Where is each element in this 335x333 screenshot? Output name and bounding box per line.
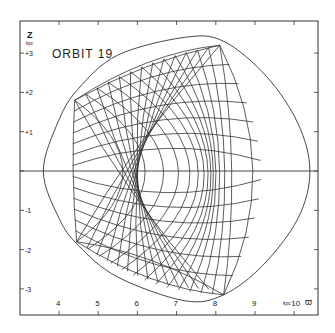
x-tick-label: 7	[174, 299, 179, 308]
y-tick-label: +1	[25, 129, 33, 136]
x-tick-label: 5	[95, 299, 100, 308]
x-tick-label: 4	[56, 299, 61, 308]
y-tick-label: +2	[25, 89, 33, 96]
x-tick-label: 10	[291, 299, 300, 308]
x-axis-symbol: ϖ	[305, 297, 312, 307]
y-tick-label: -1	[25, 207, 31, 214]
orbit-plot: 45678910+3+2+1-1-2-3 ORBIT 19 Z kpc kpc …	[0, 0, 335, 333]
y-axis-unit: kpc	[26, 41, 34, 46]
chart-title: ORBIT 19	[52, 47, 113, 61]
x-tick-label: 9	[252, 299, 257, 308]
y-tick-label: -3	[25, 286, 31, 293]
x-tick-label: 6	[134, 299, 139, 308]
orbit-trajectory	[73, 45, 261, 295]
y-tick-label: -2	[25, 247, 31, 254]
x-axis-unit: kpc	[283, 300, 291, 306]
x-tick-label: 8	[213, 299, 218, 308]
y-axis-symbol: Z	[27, 30, 33, 40]
y-tick-label: +3	[25, 50, 33, 57]
